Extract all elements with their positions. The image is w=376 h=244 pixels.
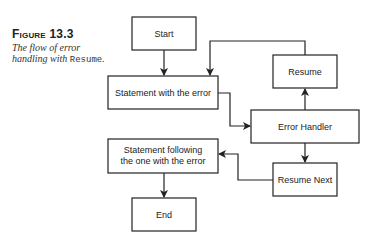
node-resume-next: Resume Next — [273, 163, 337, 196]
node-following-line2: the one with the error — [120, 156, 205, 166]
node-end-label: End — [156, 210, 172, 220]
node-end: End — [132, 198, 196, 231]
node-statement-error-label: Statement with the error — [115, 88, 211, 98]
node-statement-with-error: Statement with the error — [108, 76, 218, 109]
node-following-line1: Statement following — [124, 145, 203, 155]
node-start-label: Start — [154, 29, 174, 39]
node-statement-following: Statement following the one with the err… — [108, 139, 218, 173]
node-start: Start — [132, 17, 196, 50]
edge-resume-next-to-following — [219, 154, 273, 180]
node-resume-label: Resume — [288, 67, 322, 77]
node-error-handler-label: Error Handler — [278, 122, 332, 132]
edge-statement-to-handler — [218, 93, 250, 126]
flowchart: Start Statement with the error Resume Er… — [0, 0, 376, 244]
node-resume: Resume — [273, 55, 337, 88]
node-resume-next-label: Resume Next — [278, 175, 333, 185]
node-error-handler: Error Handler — [251, 110, 359, 143]
